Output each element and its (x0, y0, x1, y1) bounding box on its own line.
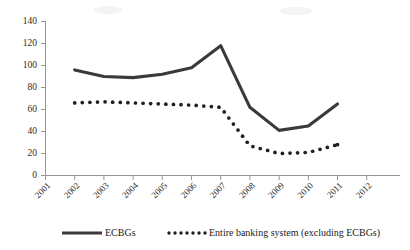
series-dot (232, 122, 236, 126)
chart-axes (46, 21, 401, 176)
x-tick-label-2005: 2005 (149, 180, 169, 200)
x-tick-label-2012: 2012 (354, 180, 374, 200)
series-dot (96, 100, 100, 104)
series-dot (258, 147, 262, 151)
y-tick-label-140: 140 (23, 16, 38, 26)
x-tick-label-2011: 2011 (325, 180, 345, 200)
series-dot (111, 100, 115, 104)
series-dot (281, 152, 285, 156)
series-dot (210, 105, 214, 109)
legend-dot (191, 231, 194, 234)
series-dot (156, 102, 160, 106)
series-dot (187, 103, 191, 107)
x-tick-label-2004: 2004 (120, 180, 140, 200)
series-dot (217, 105, 221, 109)
series-dot (222, 110, 226, 114)
series-dot (73, 101, 77, 105)
series-dot (194, 104, 198, 108)
series-dot (141, 101, 145, 105)
x-tick-label-2009: 2009 (266, 180, 286, 200)
series-ecbgs (75, 46, 338, 131)
series-dot (288, 151, 292, 155)
y-tick-label-120: 120 (23, 38, 38, 48)
y-tick-label-80: 80 (28, 82, 38, 92)
series-dot (134, 101, 138, 105)
series-dot (303, 151, 307, 155)
series-dot (179, 103, 183, 107)
series-dot (164, 102, 168, 106)
chart-legend: ECBGs Entire banking system (excluding E… (62, 227, 380, 239)
y-axis-ticks: 140 120 100 80 60 40 20 0 (23, 16, 46, 180)
legend-dot (203, 231, 206, 234)
x-tick-label-2006: 2006 (179, 180, 199, 200)
legend-swatch-entire-banking-system (167, 231, 206, 234)
series-dot (296, 151, 300, 155)
series-dot (149, 102, 153, 106)
y-tick-label-20: 20 (28, 148, 38, 158)
series-dot (236, 128, 240, 132)
series-dot (126, 101, 130, 105)
legend-label-ecbgs: ECBGs (105, 227, 136, 238)
series-dot (245, 140, 249, 144)
x-tick-label-2001: 2001 (33, 180, 53, 200)
scan-artifacts (94, 6, 312, 15)
x-axis-labels: 2001 2002 2003 2004 2005 2006 2007 2008 … (33, 180, 374, 200)
series-dot (118, 101, 122, 105)
series-dot (325, 146, 329, 150)
series-dot (227, 116, 231, 120)
x-tick-label-2008: 2008 (237, 180, 257, 200)
legend-dot (197, 231, 200, 234)
series-line-ecbgs (75, 46, 338, 131)
x-tick-label-2003: 2003 (91, 180, 111, 200)
chart-canvas: 140 120 100 80 60 40 20 0 2001 (0, 0, 410, 250)
y-tick-label-40: 40 (28, 126, 38, 136)
x-tick-label-2007: 2007 (208, 180, 228, 200)
series-dot (318, 147, 322, 151)
y-tick-label-60: 60 (28, 104, 38, 114)
series-dot (172, 103, 176, 107)
series-dot (311, 149, 315, 153)
series-dot (336, 143, 340, 147)
legend-dot (173, 231, 176, 234)
series-dot (202, 104, 206, 108)
y-tick-label-0: 0 (32, 170, 37, 180)
legend-dot (167, 231, 170, 234)
x-axis-ticks (46, 176, 367, 181)
series-dot (273, 151, 277, 155)
x-tick-label-2010: 2010 (295, 180, 315, 200)
line-chart: 140 120 100 80 60 40 20 0 2001 (0, 0, 410, 250)
x-tick-label-2002: 2002 (62, 180, 82, 200)
legend-label-entire-banking-system: Entire banking system (excluding ECBGs) (209, 227, 380, 239)
series-dot (241, 134, 245, 138)
legend-dot (179, 231, 182, 234)
series-dot (266, 149, 270, 153)
legend-dot (185, 231, 188, 234)
series-dot (88, 100, 92, 104)
series-dot (251, 145, 255, 149)
series-dot (80, 101, 84, 105)
y-tick-label-100: 100 (23, 60, 38, 70)
series-dot (103, 100, 107, 104)
